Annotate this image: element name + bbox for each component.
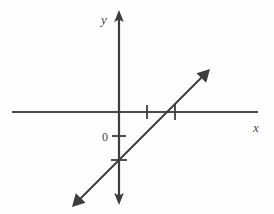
y-axis-label: y bbox=[99, 12, 107, 27]
origin-label: 0 bbox=[102, 130, 108, 144]
x-axis-label: x bbox=[252, 120, 259, 135]
coordinate-plane-svg: y x 0 bbox=[0, 0, 274, 214]
plotted-line bbox=[78, 75, 204, 201]
graph-figure: y x 0 bbox=[0, 0, 274, 214]
